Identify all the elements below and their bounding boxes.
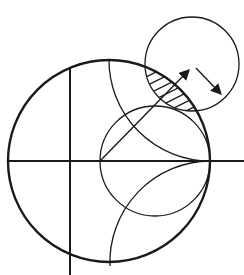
smith-chart-diagram — [0, 0, 244, 275]
stability-circle — [145, 17, 239, 111]
radius-arrow — [196, 68, 220, 93]
radius-vector-arrow — [100, 71, 188, 161]
